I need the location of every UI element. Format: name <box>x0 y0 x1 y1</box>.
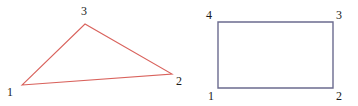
rectangle-vertex-label-2: 2 <box>336 90 342 102</box>
triangle-outline <box>22 24 172 85</box>
rectangle-vertex-label-4: 4 <box>206 9 212 21</box>
shapes-svg <box>0 0 358 106</box>
triangle-vertex-label-3: 3 <box>81 5 87 17</box>
triangle-vertex-label-2: 2 <box>176 75 182 87</box>
rectangle-outline <box>218 22 333 88</box>
figure-canvas: 1231234 <box>0 0 358 106</box>
rectangle-vertex-label-3: 3 <box>336 9 342 21</box>
triangle-vertex-label-1: 1 <box>7 86 13 98</box>
rectangle-vertex-label-1: 1 <box>208 90 214 102</box>
